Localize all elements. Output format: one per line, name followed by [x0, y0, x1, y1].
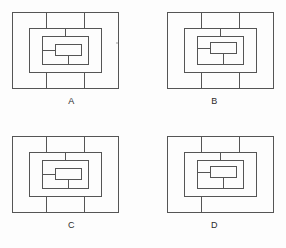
option-label-b: B: [143, 96, 286, 106]
figure-drawing-a: [0, 0, 143, 104]
outer-rectangle: [168, 13, 274, 89]
option-panel-a[interactable]: A: [0, 0, 143, 124]
option-panel-d[interactable]: D: [143, 124, 286, 248]
inner-bar-rectangle: [211, 43, 237, 54]
outer-rectangle: [13, 13, 119, 89]
inner-bar-rectangle: [56, 169, 82, 180]
outer-rectangle: [13, 137, 119, 213]
inner-bar-rectangle: [56, 45, 82, 56]
inner-bar-rectangle: [211, 167, 237, 178]
figure-drawing-c: [0, 124, 143, 228]
scan-speck: [116, 42, 118, 44]
option-panel-b[interactable]: B: [143, 0, 286, 124]
option-label-c: C: [0, 220, 143, 230]
figure-drawing-d: [143, 124, 286, 228]
option-label-a: A: [0, 96, 143, 106]
option-label-d: D: [143, 220, 286, 230]
figure-sheet: A B: [0, 0, 286, 248]
outer-rectangle: [168, 137, 274, 213]
figure-drawing-b: [143, 0, 286, 104]
option-panel-c[interactable]: C: [0, 124, 143, 248]
